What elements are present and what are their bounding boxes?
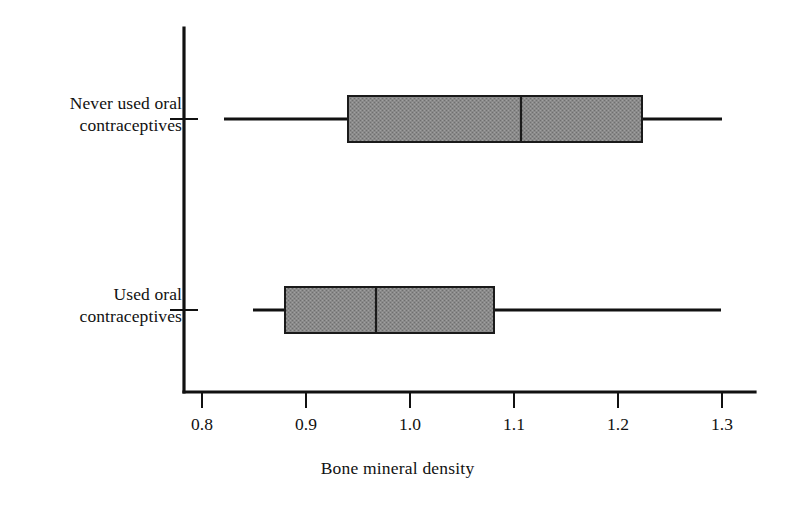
box-never-used: [348, 96, 642, 142]
x-axis-ticks: [202, 392, 722, 408]
boxplot-figure: Never used oral contraceptives Used oral…: [0, 0, 795, 506]
x-tick-label-2: 1.0: [380, 414, 440, 435]
x-tick-label-3: 1.1: [484, 414, 544, 435]
x-tick-label-1: 0.9: [276, 414, 336, 435]
box-used: [285, 287, 494, 333]
category-label-never-used: Never used oral contraceptives: [0, 92, 182, 137]
x-tick-label-5: 1.3: [692, 414, 752, 435]
x-tick-label-0: 0.8: [172, 414, 232, 435]
x-tick-label-4: 1.2: [588, 414, 648, 435]
x-axis-title: Bone mineral density: [0, 458, 795, 479]
box-plot-used: [253, 287, 721, 333]
axis-lines: [184, 28, 755, 392]
category-label-used: Used oral contraceptives: [0, 283, 182, 328]
box-plot-never-used: [224, 96, 722, 142]
